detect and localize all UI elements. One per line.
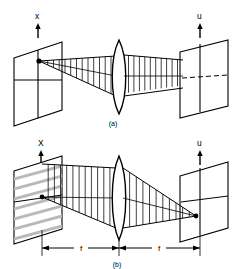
panel-a-output-arrow-icon (197, 23, 202, 38)
panel-a-ray-mid (39, 61, 116, 76)
panel-b-focal-point (194, 214, 199, 219)
panel-a-ray-upper (39, 56, 116, 61)
panel-a-optical-axis-dashed (182, 75, 228, 78)
panel-b-ray-out-upper (123, 168, 196, 216)
panel-a-caption: (a) (109, 120, 118, 128)
panel-a-output-plane (180, 40, 228, 118)
panel-b-output-plane (180, 162, 228, 242)
panel-b-output-arrow-icon (197, 150, 202, 165)
panel-b-input-label: X (38, 138, 44, 148)
optical-figure: x u (0, 0, 240, 269)
panel-a-ray-out-lower (124, 88, 183, 96)
panel-b-output-plane-haxis (181, 196, 228, 202)
panel-b-output-label: u (197, 138, 202, 148)
panel-a: x u (0, 0, 240, 134)
panel-a-lens (112, 40, 126, 114)
panel-a-output-label: u (197, 11, 202, 21)
panel-a-wavefronts-left (48, 56, 111, 93)
panel-a-ray-lower (39, 61, 116, 96)
panel-a-wavefronts-right (129, 55, 178, 92)
panel-b: X u (0, 134, 240, 269)
panel-a-input-label: x (35, 11, 40, 21)
panel-a-ray-out-upper (124, 55, 183, 60)
panel-b-ray-out-mid (123, 198, 196, 216)
panel-a-input-arrow-icon (35, 23, 40, 38)
panel-b-dimension-f1: f (42, 230, 119, 256)
panel-b-caption: (b) (113, 261, 122, 269)
panel-b-ray-out-lower (123, 216, 196, 228)
panel-b-dimension-f2: f (119, 235, 200, 256)
